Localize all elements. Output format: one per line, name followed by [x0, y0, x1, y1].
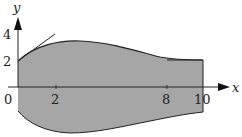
- x-tick-label-10: 10: [194, 92, 211, 107]
- x-axis-label: x: [232, 80, 240, 95]
- x-tick-label-2: 2: [51, 92, 59, 107]
- figure-canvas: y x 4 2 0 2 8 10: [0, 0, 242, 137]
- y-tick-label-2: 2: [3, 54, 11, 69]
- x-axis-arrow-icon: [218, 83, 230, 91]
- y-axis-arrow-icon: [14, 17, 22, 30]
- origin-label: 0: [4, 92, 12, 107]
- y-axis-label: y: [12, 0, 21, 15]
- y-tick-label-4: 4: [3, 27, 11, 42]
- x-tick-label-8: 8: [162, 92, 170, 107]
